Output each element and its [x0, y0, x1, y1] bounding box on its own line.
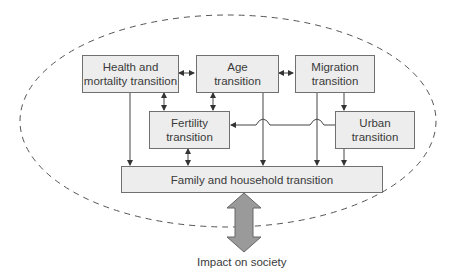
node-label-line2: transition — [312, 74, 359, 88]
node-label-line1: Health and — [103, 60, 159, 74]
impact-on-society-label: Impact on society — [197, 256, 286, 268]
node-family-household-transition: Family and household transition — [121, 166, 383, 193]
node-label-line1: Urban — [359, 116, 390, 130]
node-migration-transition: Migration transition — [295, 55, 375, 93]
node-label: Family and household transition — [171, 173, 333, 187]
node-label-line1: Age — [227, 60, 247, 74]
node-urban-transition: Urban transition — [335, 111, 415, 149]
node-label-line2: transition — [214, 74, 261, 88]
node-age-transition: Age transition — [196, 55, 279, 93]
node-label-line2: transition — [166, 130, 213, 144]
edge-urban-fertility — [231, 119, 335, 125]
node-label-line2: mortality transition — [84, 74, 177, 88]
node-label-line2: transition — [352, 130, 399, 144]
node-label-line1: Migration — [311, 60, 358, 74]
node-health-mortality-transition: Health and mortality transition — [82, 55, 179, 93]
node-fertility-transition: Fertility transition — [149, 111, 230, 149]
impact-double-arrow-icon — [227, 193, 261, 252]
node-label-line1: Fertility — [171, 116, 208, 130]
